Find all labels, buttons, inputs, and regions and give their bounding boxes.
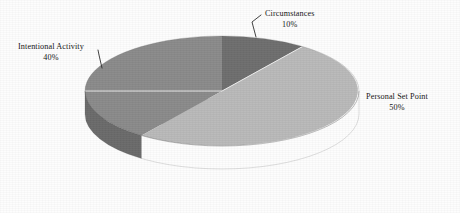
label-personal-set-point-percent: 50% — [366, 103, 428, 114]
label-personal-set-point: Personal Set Point 50% — [366, 92, 428, 114]
label-personal-set-point-name: Personal Set Point — [366, 92, 428, 101]
label-circumstances-name: Circumstances — [265, 9, 315, 18]
label-intentional-activity-percent: 40% — [18, 53, 84, 64]
label-circumstances: Circumstances 10% — [265, 9, 315, 31]
label-intentional-activity: Intentional Activity 40% — [18, 42, 84, 64]
leader-line-intentional-activity — [98, 50, 102, 68]
label-intentional-activity-name: Intentional Activity — [18, 42, 84, 51]
pie-chart-figure: Circumstances 10% Intentional Activity 4… — [0, 0, 460, 213]
leader-line-circumstances — [252, 15, 261, 37]
label-circumstances-percent: 10% — [265, 20, 315, 31]
